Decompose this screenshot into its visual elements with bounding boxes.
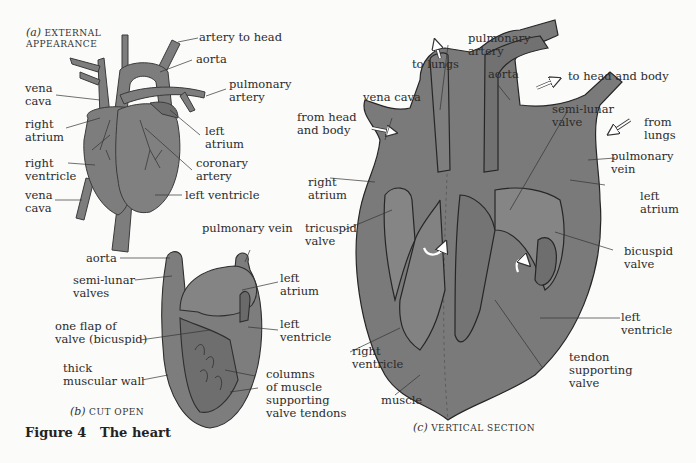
label-left-atrium-c: left atrium xyxy=(640,190,679,216)
panel-a-letter: (a) xyxy=(26,26,41,39)
label-tendon-supporting-valve: tendon supporting valve xyxy=(569,351,633,390)
label-pulmonary-artery-c: pulmonary artery xyxy=(468,32,531,58)
label-semi-lunar-valves: semi-lunar valves xyxy=(73,274,135,300)
label-right-ventricle-a: right ventricle xyxy=(25,157,76,183)
label-vena-cava-c: vena cava xyxy=(363,91,421,104)
label-from-head-and-body: from head and body xyxy=(297,111,357,137)
label-columns-of-muscle: columns of muscle supporting valve tendo… xyxy=(266,368,346,420)
label-left-atrium-a: left atrium xyxy=(205,125,244,151)
panel-a-external-heart xyxy=(70,35,205,252)
panel-b-cut-open-heart xyxy=(162,252,262,428)
label-left-ventricle-a: left ventricle xyxy=(185,189,259,202)
panel-c-caption-text: VERTICAL SECTION xyxy=(431,423,535,433)
panel-b-letter: (b) xyxy=(70,405,86,418)
label-semi-lunar-valve-c: semi-lunar valve xyxy=(552,103,614,129)
label-thick-muscular-wall: thick muscular wall xyxy=(63,362,145,388)
figure-caption: Figure 4 The heart xyxy=(25,425,171,440)
label-to-lungs: to lungs xyxy=(412,58,459,71)
label-aorta-c: aorta xyxy=(488,68,519,81)
label-to-head-and-body: to head and body xyxy=(568,70,669,83)
label-right-ventricle-c: right ventricle xyxy=(352,345,403,371)
label-one-flap-of-valve: one flap of valve (bicuspid) xyxy=(55,320,147,346)
label-right-atrium-a: right atrium xyxy=(25,118,64,144)
label-left-atrium-b: left atrium xyxy=(280,272,319,298)
panel-c-letter: (c) xyxy=(413,421,428,434)
panel-b-caption-text: CUT OPEN xyxy=(89,407,144,417)
label-left-ventricle-c: left ventricle xyxy=(621,311,672,337)
label-bicuspid-valve: bicuspid valve xyxy=(624,245,673,271)
label-vena-cava-top: vena cava xyxy=(25,82,53,108)
label-pulmonary-artery-a: pulmonary artery xyxy=(229,78,292,104)
label-left-ventricle-b: left ventricle xyxy=(280,318,331,344)
label-vena-cava-bottom: vena cava xyxy=(25,189,53,215)
label-from-lungs: from lungs xyxy=(644,116,676,142)
label-pulmonary-vein-c: pulmonary vein xyxy=(611,150,674,176)
panel-c-caption: (c) VERTICAL SECTION xyxy=(413,421,535,434)
figure-title: The heart xyxy=(100,425,171,440)
label-artery-to-head: artery to head xyxy=(199,31,282,44)
panel-a-caption: (a) EXTERNAL APPEARANCE xyxy=(26,26,101,49)
label-aorta-a: aorta xyxy=(196,53,227,66)
label-aorta-b: aorta xyxy=(86,252,117,265)
label-pulmonary-vein-b: pulmonary vein xyxy=(202,222,293,235)
panel-b-caption: (b) CUT OPEN xyxy=(70,405,144,418)
figure-number: Figure 4 xyxy=(25,425,86,440)
label-right-atrium-c: right atrium xyxy=(308,176,347,202)
label-muscle: muscle xyxy=(381,394,422,407)
label-tricuspid-valve: tricuspid valve xyxy=(305,222,357,248)
label-coronary-artery: coronary artery xyxy=(196,157,248,183)
